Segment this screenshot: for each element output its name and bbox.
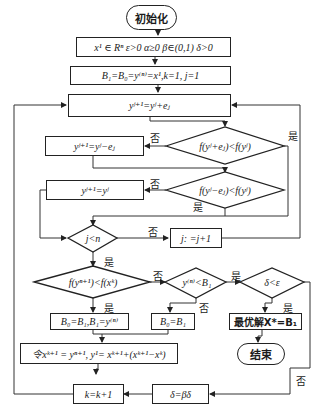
assign-b-no-box: B₀=B₁: [151, 313, 195, 330]
edge-label-yes: 是: [288, 128, 298, 143]
edge-label-yes: 是: [193, 199, 203, 214]
edge-label-no: 否: [199, 300, 209, 315]
update-x-box: 令xᵏ⁺¹ = yⁿ⁺¹, y¹= xᵏ⁺¹+(xᵏ⁺¹−xᵏ): [20, 343, 178, 364]
edge-label-yes: 是: [104, 300, 114, 315]
optimal-box: 最优解X*=B₁: [229, 313, 302, 330]
step-j-inc-box: j: =j+1: [170, 228, 222, 248]
edge-label-no: 否: [153, 268, 163, 283]
cond-delta-text: δ<ε: [250, 275, 294, 289]
assign-b-yes-box: B₀=B₁,B₁=y⁽ⁿ⁾: [50, 313, 129, 330]
cond-plus-text: f(yʲ+eⱼ)<f(yʲ): [180, 139, 270, 153]
init-params-box: x¹ ∈ Rⁿ ε>0 α≥0 β∈(0,1) δ>0: [76, 37, 231, 57]
init-vars-box: B₁=B₀=y⁽ⁿ⁾=x¹,k=1, j=1: [70, 66, 231, 85]
edge-label-no: 否: [296, 373, 306, 388]
step-plus-box: yʲ⁺¹=yʲ+eⱼ: [68, 94, 231, 117]
edge-label-yes: 是: [283, 300, 293, 315]
cond-f-text: f(yⁿ⁺¹)<f(xᵏ): [48, 275, 138, 289]
step-k-box: k=k+1: [73, 384, 124, 404]
step-delta-box: δ=βδ: [152, 384, 209, 404]
start-terminal: 初始化: [126, 5, 177, 30]
step-same-box: yʲ⁺¹=yʲ: [46, 180, 144, 200]
end-terminal: 结束: [237, 343, 285, 365]
edge-label-no: 否: [148, 224, 158, 239]
edge-label-yes: 是: [104, 254, 114, 269]
edge-label-yes: 是: [231, 268, 241, 283]
cond-minus-text: f(yʲ−eⱼ)<f(yʲ): [180, 183, 270, 197]
edge-label-no: 否: [150, 130, 160, 145]
cond-y-text: y⁽ⁿ⁾<B₁: [172, 275, 222, 289]
step-minus-box: yʲ⁺¹=yʲ−eⱼ: [45, 136, 144, 156]
cond-j-text: j<n: [72, 231, 114, 245]
edge-label-no: 否: [150, 176, 160, 191]
